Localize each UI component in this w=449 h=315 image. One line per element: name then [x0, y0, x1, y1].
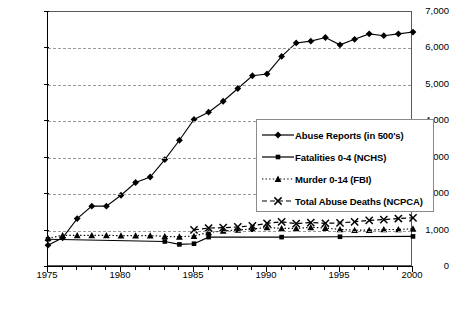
series-line [48, 236, 413, 244]
x-axis-tick-mark-minor [222, 266, 223, 270]
x-axis-tick-label: 1985 [173, 270, 213, 280]
x-axis-tick-mark-minor [237, 266, 238, 270]
data-point [395, 30, 402, 37]
data-point [103, 232, 110, 238]
x-axis-tick-label: 1995 [319, 270, 359, 280]
x-axis-tick-label: 1990 [246, 270, 286, 280]
y-axis-tick-mark [44, 84, 49, 85]
gridline [48, 231, 411, 232]
chart-container: 01,0002,0003,0004,0005,0006,0007,000 197… [0, 0, 449, 315]
y-axis-tick-mark [44, 157, 49, 158]
data-point [279, 235, 284, 240]
legend-item-3[interactable]: Murder 0-14 (FBI) [261, 168, 428, 190]
data-point [163, 239, 168, 244]
data-point [338, 234, 343, 239]
y-axis-tick-mark [44, 193, 49, 194]
data-point [380, 32, 387, 39]
legend-item-label: Murder 0-14 (FBI) [295, 174, 371, 185]
series-2 [46, 234, 416, 247]
gridline [48, 85, 411, 86]
y-axis-tick-mark [44, 120, 49, 121]
data-point [307, 38, 314, 45]
legend-item-label: Abuse Reports (in 500's) [295, 130, 404, 141]
data-point [45, 235, 52, 241]
x-axis-tick-mark-minor [310, 266, 311, 270]
y-axis-tick-mark [44, 47, 49, 48]
legend-item-1[interactable]: Abuse Reports (in 500's) [261, 124, 428, 146]
data-point [322, 34, 329, 41]
x-axis-tick-mark-minor [91, 266, 92, 270]
series-3 [45, 224, 417, 241]
y-axis-tick-mark [44, 230, 49, 231]
x-axis-tick-label: 1980 [100, 270, 140, 280]
x-axis-line [47, 266, 413, 267]
data-point [88, 232, 95, 238]
y-axis-tick-mark [44, 11, 49, 12]
x-axis-tick-label: 1975 [27, 270, 67, 280]
data-point [206, 235, 211, 240]
square-marker-icon [261, 150, 295, 164]
x-axis-tick-mark-minor [368, 266, 369, 270]
diamond-marker-icon [261, 128, 295, 142]
data-point [177, 242, 182, 247]
data-point [45, 242, 52, 249]
x-axis-tick-mark-minor [383, 266, 384, 270]
gridline [48, 48, 411, 49]
legend-item-4[interactable]: Total Abuse Deaths (NCPCA) [261, 190, 428, 212]
y-axis-tick-label: 6,000 [405, 42, 449, 51]
data-point [74, 232, 81, 238]
data-point [366, 30, 373, 37]
y-axis-tick-label: 1,000 [405, 225, 449, 234]
data-point [351, 36, 358, 43]
legend-item-label: Total Abuse Deaths (NCPCA) [295, 196, 423, 207]
x-axis-tick-mark-minor [149, 266, 150, 270]
triangle-marker-icon [261, 172, 295, 186]
y-axis-tick-label: 5,000 [405, 79, 449, 88]
x-axis-tick-mark-minor [295, 266, 296, 270]
y-axis-tick-label: 7,000 [405, 6, 449, 15]
data-point [410, 29, 417, 36]
legend-item-2[interactable]: Fatalities 0-4 (NCHS) [261, 146, 428, 168]
x-axis-tick-label: 2000 [392, 270, 432, 280]
data-point [411, 234, 416, 239]
x-marker-icon [261, 194, 295, 208]
chart-legend: Abuse Reports (in 500's)Fatalities 0-4 (… [256, 119, 434, 212]
legend-item-label: Fatalities 0-4 (NCHS) [295, 152, 386, 163]
data-point [337, 41, 344, 48]
x-axis-tick-mark-minor [164, 266, 165, 270]
x-axis-tick-mark-minor [76, 266, 77, 270]
data-point [192, 241, 197, 246]
